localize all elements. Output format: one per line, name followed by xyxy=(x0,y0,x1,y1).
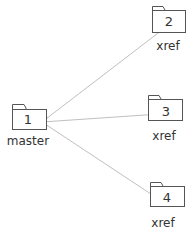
edge-1-3 xyxy=(42,114,160,122)
xref-folder-3[interactable]: 3 xref xyxy=(149,96,183,144)
master-label: master xyxy=(7,134,49,148)
node-number: 4 xyxy=(163,190,171,205)
xref-folder-2[interactable]: 2 xref xyxy=(153,7,186,54)
edge-1-2 xyxy=(42,30,162,122)
edge-1-4 xyxy=(42,122,160,200)
connectors xyxy=(42,30,162,200)
node-number: 3 xyxy=(162,104,170,119)
node-label: xref xyxy=(152,129,176,143)
diagram-canvas: 1 master 2 xref 3 xref 4 xref xyxy=(0,0,196,241)
master-number: 1 xyxy=(24,112,32,127)
node-number: 2 xyxy=(165,14,173,29)
master-folder[interactable]: 1 master xyxy=(7,105,49,149)
node-label: xref xyxy=(156,39,180,53)
node-label: xref xyxy=(151,216,175,230)
xref-folder-4[interactable]: 4 xref xyxy=(151,183,185,231)
